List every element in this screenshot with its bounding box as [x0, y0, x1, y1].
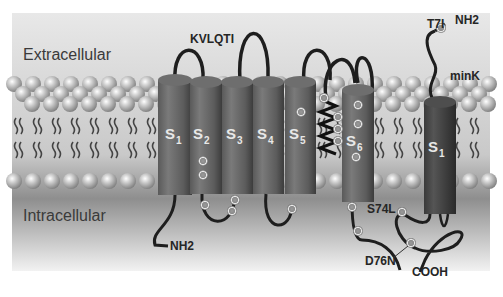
mink-nh2-label: NH2 — [455, 13, 479, 27]
segment-s5: S 5 — [284, 76, 316, 194]
svg-text:6: 6 — [357, 142, 363, 153]
svg-text:S: S — [428, 138, 438, 155]
svg-text:4: 4 — [268, 135, 274, 146]
kvlqt1-label: KVLQTI — [190, 32, 234, 46]
extracellular-label: Extracellular — [23, 46, 112, 63]
mutation-t7i-label: T7I — [427, 17, 444, 31]
intracellular-label: Intracellular — [23, 207, 106, 224]
svg-text:1: 1 — [439, 148, 445, 159]
kvlqt1-nh2-label: NH2 — [170, 239, 194, 253]
svg-text:S: S — [346, 132, 356, 149]
svg-text:S: S — [226, 125, 236, 142]
svg-text:2: 2 — [204, 135, 210, 146]
svg-text:1: 1 — [176, 135, 182, 146]
mink-cooh-label: COOH — [412, 265, 448, 279]
ion-channel-diagram: Extracellular Intracellular KVLQTI S 1 S… — [0, 0, 503, 297]
svg-text:S: S — [193, 125, 203, 142]
segment-s4: S 4 — [252, 76, 284, 194]
svg-text:5: 5 — [300, 135, 306, 146]
segment-s3: S 3 — [221, 76, 253, 194]
segment-s1: S 1 — [158, 74, 192, 195]
svg-text:S: S — [257, 125, 267, 142]
svg-text:S: S — [289, 125, 299, 142]
mutation-s74l-label: S74L — [367, 202, 396, 216]
svg-text:3: 3 — [237, 135, 243, 146]
mink-label: minK — [450, 69, 480, 83]
mutation-d76n-label: D76N — [365, 254, 396, 268]
svg-text:S: S — [165, 125, 175, 142]
